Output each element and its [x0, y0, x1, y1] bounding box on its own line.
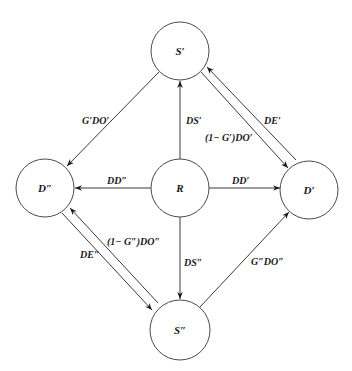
edge-d2-to-s2	[62, 213, 152, 310]
edge-s1-to-d2	[67, 72, 159, 166]
edge-label: DE″	[79, 249, 99, 260]
edge-label: DD″	[106, 175, 127, 186]
nodes-layer: S′D″RD′S″	[16, 22, 338, 360]
edge-label: G′DO′	[82, 115, 109, 126]
node-label: D′	[302, 184, 314, 196]
node-label: R	[175, 182, 183, 194]
flow-diagram: S′D″RD′S″ G′DO′DS′DD″DD′DS″(1− G′)DO′DE′…	[0, 0, 352, 371]
edge-label: G″DO″	[251, 256, 284, 267]
node-label: S′	[175, 45, 184, 57]
edge-label: DD′	[231, 175, 249, 186]
edge-d1-to-s1	[207, 67, 296, 160]
edge-label: DS′	[185, 115, 202, 126]
node-r: R	[151, 159, 209, 217]
node-s1: S′	[151, 22, 209, 80]
edge-label: (1− G′)DO′	[205, 132, 253, 144]
arrow-icon	[207, 67, 296, 160]
arrow-icon	[62, 213, 152, 310]
node-d2: D″	[16, 159, 74, 217]
arrow-icon	[67, 72, 159, 166]
edge-label: DS″	[183, 257, 202, 268]
edge-label: DE′	[263, 115, 281, 126]
node-label: S″	[174, 324, 186, 336]
diagram-canvas: S′D″RD′S″ G′DO′DS′DD″DD′DS″(1− G′)DO′DE′…	[0, 0, 352, 371]
node-s2: S″	[150, 300, 210, 360]
edge-label: (1− G″)DO″	[107, 236, 160, 248]
node-d1: D′	[280, 161, 338, 219]
node-label: D″	[37, 182, 52, 194]
